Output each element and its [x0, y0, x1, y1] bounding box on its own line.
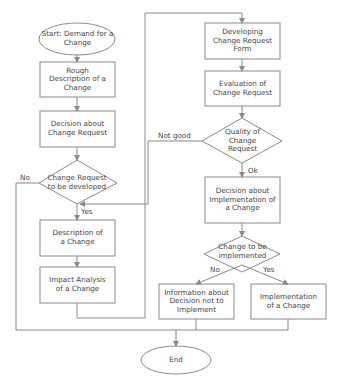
quality-node: Quality of Change Request — [215, 123, 270, 159]
start-node: Start: Demand for a Change — [40, 23, 115, 55]
developing-form-node: Developing Change Request Form — [205, 23, 280, 59]
description-node: Description of a Change — [40, 220, 115, 256]
edge-label-not-good: Not good — [158, 131, 191, 140]
decision-cr-node: Decision about Change Request — [40, 111, 115, 147]
evaluation-node: Evaluation of Change Request — [205, 71, 280, 106]
change-impl-node: Change to be implemented — [215, 240, 270, 264]
info-not-impl-node: Information about Decision not to Implem… — [159, 284, 234, 319]
cr-developed-node: Change Request to be developed — [47, 165, 107, 201]
edge-label-yes-left: Yes — [81, 207, 93, 216]
edge-label-yes-right: Yes — [263, 265, 275, 274]
end-node: End — [141, 346, 211, 374]
edge-label-ok: Ok — [248, 166, 258, 175]
implementation-node: Implementation of a Change — [251, 284, 326, 319]
decision-impl-node: Decision about Implementation of a Chang… — [205, 177, 280, 223]
edge-label-no-left: No — [20, 173, 30, 182]
rough-description-node: Rough Description of a Change — [40, 62, 115, 97]
edge-label-no-right: No — [210, 265, 220, 274]
impact-analysis-node: Impact Analysis of a Change — [40, 267, 115, 303]
